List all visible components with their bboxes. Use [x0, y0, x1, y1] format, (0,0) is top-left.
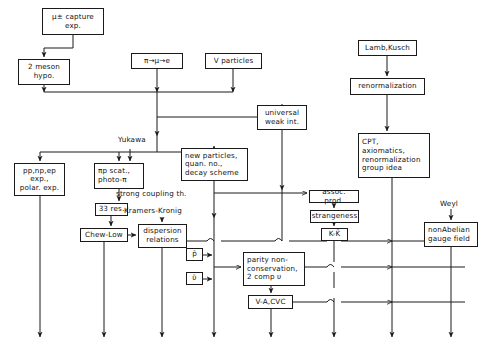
node-v-a-cvc[interactable]: V-A,CVC [248, 295, 293, 309]
annotation-kramers-kronig: Kramers-Kronig [124, 207, 182, 215]
node-chew-low[interactable]: Chew-Low [80, 228, 128, 242]
node-renormalization[interactable]: renormalization [350, 78, 425, 95]
node-pi-mu-e[interactable]: π→μ→e [131, 53, 183, 69]
node-renormalization-label: renormalization [358, 82, 417, 91]
node-strangeness-label: strangeness [312, 212, 358, 221]
node-parity-nonconservation[interactable]: parity non- conservation, 2 comp υ [243, 252, 305, 286]
node-two-meson-hypothesis[interactable]: 2 meson hypo. [18, 59, 70, 85]
node-nonabelian-gauge-field-label: nonAbelian gauge field [428, 226, 470, 243]
node-33-resonance-label: 33 res. [99, 205, 125, 214]
node-antineutrino-label: ῡ [192, 274, 196, 283]
node-antineutrino[interactable]: ῡ [186, 272, 203, 285]
node-new-particles[interactable]: new particles, quan. no., decay scheme [181, 148, 248, 181]
node-associated-production[interactable]: assoc. prod. [309, 190, 359, 203]
node-universal-weak-interaction[interactable]: universal weak int. [257, 105, 307, 130]
node-chew-low-label: Chew-Low [85, 231, 123, 240]
node-antiproton[interactable]: p̄ [186, 248, 203, 261]
annotation-yukawa: Yukawa [118, 136, 146, 144]
node-dispersion-relations-label: dispersion relations [143, 227, 181, 244]
node-mu-capture-label: μ± capture exp. [52, 13, 94, 30]
node-v-particles[interactable]: V particles [205, 53, 262, 69]
node-parity-nonconservation-label: parity non- conservation, 2 comp υ [247, 256, 298, 282]
node-new-particles-label: new particles, quan. no., decay scheme [185, 152, 239, 178]
flowchart-canvas: μ± capture exp. 2 meson hypo. π→μ→e V pa… [0, 0, 497, 355]
node-dispersion-relations[interactable]: dispersion relations [138, 224, 187, 248]
node-cpt-axiomatics[interactable]: CPT, axiomatics, renormalization group i… [358, 133, 430, 178]
node-lamb-kusch[interactable]: Lamb,Kusch [358, 40, 417, 56]
node-associated-production-label: assoc. prod. [312, 188, 356, 205]
annotation-strong-coupling-theory: strong coupling th. [116, 190, 187, 198]
node-v-particles-label: V particles [214, 57, 254, 66]
node-two-meson-hypothesis-label: 2 meson hypo. [28, 63, 60, 80]
node-strangeness[interactable]: strangeness [310, 210, 359, 223]
node-pip-scattering[interactable]: πp scat., photo-π [94, 163, 144, 189]
node-mu-capture[interactable]: μ± capture exp. [42, 8, 104, 35]
node-universal-weak-interaction-label: universal weak int. [265, 109, 299, 126]
node-pip-scattering-label: πp scat., photo-π [98, 167, 130, 184]
node-k-kbar[interactable]: K-K̄ [321, 228, 348, 241]
node-pp-np-ep-experiments[interactable]: pp,np,ep exp., polar. exp. [14, 163, 65, 196]
node-antiproton-label: p̄ [192, 250, 197, 259]
node-lamb-kusch-label: Lamb,Kusch [365, 44, 410, 53]
node-pi-mu-e-label: π→μ→e [144, 57, 170, 66]
node-v-a-cvc-label: V-A,CVC [255, 298, 285, 307]
node-k-kbar-label: K-K̄ [329, 230, 341, 239]
node-pp-np-ep-experiments-label: pp,np,ep exp., polar. exp. [20, 167, 59, 193]
node-nonabelian-gauge-field[interactable]: nonAbelian gauge field [424, 222, 478, 247]
node-cpt-axiomatics-label: CPT, axiomatics, renormalization group i… [362, 138, 421, 172]
annotation-weyl: Weyl [440, 200, 458, 208]
